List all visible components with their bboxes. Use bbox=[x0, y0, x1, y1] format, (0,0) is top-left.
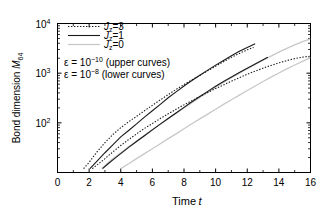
x-axis-title-var: t bbox=[198, 195, 202, 207]
y-tick-label: 104 bbox=[35, 18, 50, 30]
x-tick-label: 10 bbox=[210, 177, 222, 188]
x-tick-label: 2 bbox=[86, 177, 92, 188]
x-tick-label: 16 bbox=[305, 177, 317, 188]
x-tick-label: 12 bbox=[242, 177, 254, 188]
y-tick-label: 102 bbox=[35, 117, 50, 129]
x-axis-title: Time bbox=[172, 195, 196, 207]
x-tick-label: 8 bbox=[181, 177, 187, 188]
x-tick-label: 6 bbox=[150, 177, 156, 188]
figure-chart-bond-dimension: 0246810121416102103104TimetBond dimensio… bbox=[0, 0, 328, 215]
y-axis-title: Bond dimension M64 bbox=[11, 53, 24, 144]
chart-canvas: 0246810121416102103104TimetBond dimensio… bbox=[0, 0, 328, 215]
legend-label: Jz=0 bbox=[103, 39, 124, 52]
y-tick-label: 103 bbox=[35, 67, 50, 79]
plot-frame bbox=[58, 24, 311, 173]
x-tick-label: 4 bbox=[118, 177, 124, 188]
annotation-eps-lower: ε = 10−8 (lower curves) bbox=[64, 68, 165, 80]
annotation-eps-upper: ε = 10−10 (upper curves) bbox=[64, 56, 170, 68]
x-tick-label: 14 bbox=[273, 177, 285, 188]
x-tick-label: 0 bbox=[55, 177, 61, 188]
